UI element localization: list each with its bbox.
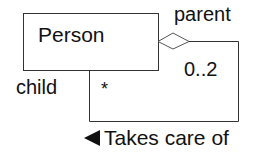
parent-multiplicity-label: 0..2 [184, 59, 217, 79]
aggregation-diamond-icon [158, 33, 189, 49]
child-multiplicity-label: * [101, 80, 108, 98]
child-role-label: child [16, 77, 57, 97]
parent-role-label: parent [174, 4, 231, 24]
class-name: Person [38, 24, 105, 45]
association-name-label: Takes care of [104, 127, 229, 148]
triangle-left-icon [84, 130, 100, 146]
